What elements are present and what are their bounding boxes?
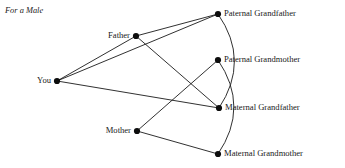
node-label-mother: Mother [106, 126, 131, 135]
edge-father-to-maternal_grandfather [136, 36, 219, 108]
kinship-diagram: For a Male YouFatherMotherPaternal Grand… [0, 0, 345, 168]
node-dot-mother[interactable] [134, 128, 140, 134]
edge-father-to-paternal_grandfather [136, 14, 218, 36]
graph-canvas [0, 0, 345, 168]
node-dot-paternal_grandfather[interactable] [215, 11, 221, 17]
nodes-layer [54, 11, 222, 157]
node-dot-maternal_grandfather[interactable] [216, 105, 222, 111]
edge-mother-to-paternal_grandmother [137, 60, 218, 131]
edge-mother-to-maternal_grandmother [137, 131, 218, 154]
node-label-paternal_grandmother: Paternal Grandmother [224, 55, 300, 64]
node-label-father: Father [108, 31, 130, 40]
node-dot-father[interactable] [133, 33, 139, 39]
edges-layer [57, 14, 235, 154]
node-label-maternal_grandmother: Maternal Grandmother [224, 149, 303, 158]
node-label-paternal_grandfather: Paternal Grandfather [224, 9, 296, 18]
node-label-you: You [37, 76, 51, 85]
node-dot-you[interactable] [54, 78, 60, 84]
edge-you-to-maternal_grandfather [57, 81, 219, 108]
edge-you-to-father [57, 36, 136, 81]
node-dot-paternal_grandmother[interactable] [215, 57, 221, 63]
node-dot-maternal_grandmother[interactable] [215, 151, 221, 157]
node-label-maternal_grandfather: Maternal Grandfather [225, 103, 300, 112]
edge-you-to-paternal_grandfather [57, 14, 218, 81]
